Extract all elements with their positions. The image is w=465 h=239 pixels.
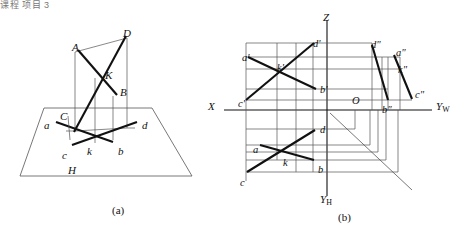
point-label-a-dprime: a" xyxy=(396,48,406,59)
point-label-b: b xyxy=(318,165,323,176)
point-label-b-dprime: b" xyxy=(382,105,392,116)
point-label-d-prime: d' xyxy=(313,39,321,50)
point-label-a: a xyxy=(253,145,258,156)
point-label-k-dprime: k" xyxy=(398,65,407,76)
axis-label-Z: Z xyxy=(323,12,329,23)
point-label-b: b xyxy=(118,146,124,157)
point-label-C: C xyxy=(60,111,67,122)
axis-label-YW: YW xyxy=(436,101,450,114)
miter-line-45 xyxy=(330,113,412,190)
point-label-k-prime: k' xyxy=(277,63,284,74)
figure-panel xyxy=(0,0,465,239)
technical-drawing-svg xyxy=(0,0,465,239)
point-label-c: c xyxy=(62,150,67,161)
figure-a-pictorial xyxy=(20,36,192,176)
point-label-a-prime: a' xyxy=(242,53,250,64)
point-label-d-dprime: d" xyxy=(371,40,381,51)
point-label-a: a xyxy=(44,120,50,131)
point-label-K: K xyxy=(105,70,112,81)
point-label-d: d xyxy=(142,120,148,131)
side-line-ac xyxy=(394,55,412,99)
construction-lines-side-feed xyxy=(355,110,398,172)
side-line-db xyxy=(372,45,388,100)
caption-b: (b) xyxy=(338,212,351,223)
point-label-c-dprime: c" xyxy=(415,90,424,101)
caption-a: (a) xyxy=(112,205,124,216)
point-label-c-prime: c' xyxy=(238,99,245,110)
axis-label-X: X xyxy=(208,101,215,112)
point-label-c: c xyxy=(240,178,245,189)
construction-lines-front xyxy=(246,43,412,100)
point-label-A: A xyxy=(72,42,79,53)
line-ab-projection xyxy=(56,122,113,142)
point-label-k: k xyxy=(87,146,92,157)
line-cd-projection xyxy=(72,122,137,145)
point-label-H: H xyxy=(68,165,76,176)
point-label-O: O xyxy=(352,96,360,107)
point-label-k: k xyxy=(283,158,288,169)
point-label-D: D xyxy=(123,28,131,39)
point-label-B: B xyxy=(120,87,127,98)
axis-label-YH: YH xyxy=(320,194,332,207)
connector-C-c xyxy=(68,116,70,140)
point-label-d: d xyxy=(320,125,325,136)
point-label-b-prime: b' xyxy=(320,85,328,96)
